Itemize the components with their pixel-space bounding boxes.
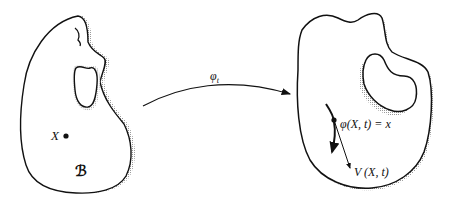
mapping-label-sub: t — [217, 76, 219, 85]
position-equation-label: φ(X, t) = x — [340, 118, 391, 130]
reference-body-hole — [74, 67, 97, 108]
velocity-label: V (X, t) — [354, 166, 389, 178]
mapping-arrow — [143, 85, 290, 106]
mapping-label-base: φ — [210, 69, 217, 83]
body-label: ℬ — [75, 164, 87, 179]
spatial-point-dot — [331, 117, 336, 122]
current-body — [297, 14, 433, 191]
point-x-label: X — [51, 129, 59, 142]
mapping-label: φt — [210, 70, 219, 85]
material-point-dot — [63, 133, 68, 138]
